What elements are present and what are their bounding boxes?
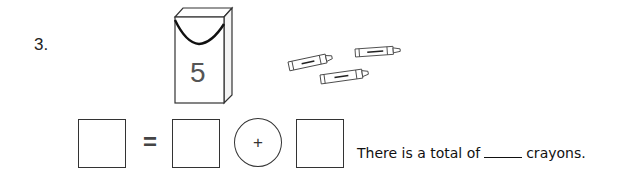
- crayon-box-label: 5: [190, 57, 206, 89]
- crayon-icon: [288, 46, 400, 84]
- total-sentence: There is a total ofcrayons.: [357, 145, 586, 161]
- answer-box-addend-1[interactable]: [172, 119, 220, 168]
- sentence-prefix: There is a total of: [357, 145, 480, 161]
- plus-sign: +: [253, 133, 263, 153]
- crayon-box-icon: 5: [172, 5, 236, 105]
- question-number: 3.: [34, 35, 48, 55]
- operator-circle[interactable]: +: [234, 118, 282, 167]
- loose-crayons: [282, 40, 422, 90]
- sentence-suffix: crayons.: [526, 145, 586, 161]
- answer-box-addend-2[interactable]: [296, 119, 344, 168]
- equals-sign: =: [143, 130, 157, 154]
- answer-box-total[interactable]: [78, 119, 126, 168]
- total-blank[interactable]: [484, 157, 522, 158]
